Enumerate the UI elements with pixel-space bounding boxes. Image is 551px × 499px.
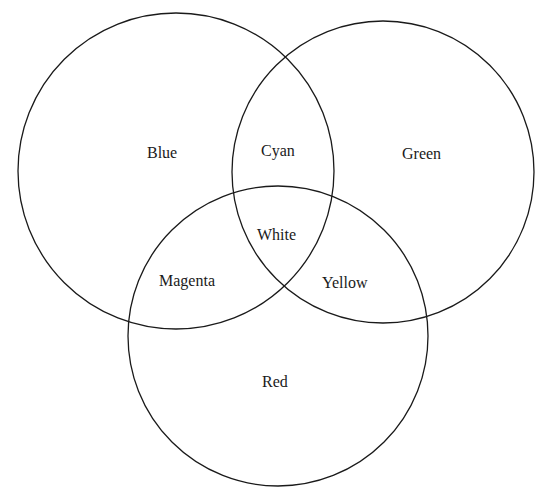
label-cyan: Cyan	[261, 142, 295, 160]
label-magenta: Magenta	[159, 272, 215, 290]
label-green: Green	[402, 145, 441, 162]
label-white: White	[257, 226, 296, 243]
label-blue: Blue	[147, 144, 177, 161]
label-yellow: Yellow	[322, 274, 368, 291]
green-circle	[232, 21, 534, 323]
additive-color-venn-diagram: Blue Cyan Green White Magenta Yellow Red	[0, 0, 551, 499]
label-red: Red	[262, 373, 288, 390]
